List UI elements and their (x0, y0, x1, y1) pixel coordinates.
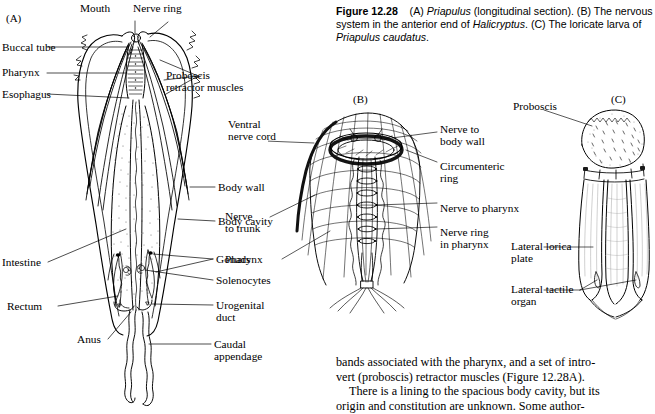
label-intestine: Intestine (2, 256, 41, 269)
label-circumenteric-line2: ring (440, 172, 458, 185)
label-esophagus: Esophagus (2, 88, 51, 101)
body-line-2: vert (proboscis) retractor muscles (Figu… (336, 370, 654, 385)
label-urogenital-line2: duct (216, 311, 235, 324)
label-caudal-line2: appendage (214, 350, 262, 363)
label-caudal-line1: Caudal (214, 338, 246, 351)
label-circumenteric-line1: Circumenteric (440, 160, 505, 173)
label-lateral-tactile-line1: Lateral tactile (511, 283, 573, 296)
label-proboscis-retractor-line2: retractor muscles (166, 81, 243, 94)
caption-gap (398, 5, 410, 17)
label-rectum: Rectum (7, 300, 42, 313)
label-nerve-to-body-wall-line2: body wall (440, 135, 485, 148)
label-proboscis-retractor-line1: Proboscis (166, 69, 210, 82)
panel-b-id: (B) (353, 93, 368, 105)
label-nerve-ring-in-pharynx-line1: Nerve ring (440, 226, 489, 239)
label-nerve-to-pharynx: Nerve to pharynx (440, 202, 519, 215)
label-lateral-lorica-line2: plate (511, 252, 533, 265)
figure-caption: Figure 12.28 (A) Priapulus (longitudinal… (336, 5, 654, 43)
label-panel-b-pharynx: Pharynx (225, 253, 263, 266)
label-anus: Anus (77, 333, 101, 346)
label-urogenital-line1: Urogenital (216, 299, 264, 312)
label-buccal-tube: Buccal tube (2, 41, 56, 54)
panel-a-id: (A) (6, 12, 21, 24)
label-nerve-to-trunk-line2: to trunk (225, 222, 260, 235)
label-body-wall: Body wall (218, 181, 265, 194)
label-mouth: Mouth (80, 2, 110, 15)
label-ventral-nerve-cord-line1: Ventral (228, 118, 261, 131)
label-lateral-tactile-line2: organ (511, 295, 537, 308)
label-proboscis: Proboscis (513, 100, 557, 113)
label-pharynx: Pharynx (2, 66, 40, 79)
body-line-4: origin and constitution are unknown. Som… (336, 399, 654, 414)
panel-b-drawing (268, 105, 458, 320)
label-nerve-ring: Nerve ring (133, 2, 182, 15)
body-text-block: bands associated with the pharynx, and a… (336, 355, 654, 413)
label-lateral-lorica-line1: Lateral lorica (511, 240, 572, 253)
body-line-3: There is a lining to the spacious body c… (336, 384, 654, 399)
label-solenocytes: Solenocytes (216, 274, 271, 287)
label-nerve-ring-in-pharynx-line2: in pharynx (440, 238, 489, 251)
body-line-1: bands associated with the pharynx, and a… (336, 355, 654, 370)
figure-number: Figure 12.28 (336, 5, 398, 17)
label-nerve-to-body-wall-line1: Nerve to (440, 123, 479, 136)
label-ventral-nerve-cord-line2: nerve cord (228, 130, 276, 143)
label-nerve-to-trunk-line1: Nerve (225, 210, 253, 223)
